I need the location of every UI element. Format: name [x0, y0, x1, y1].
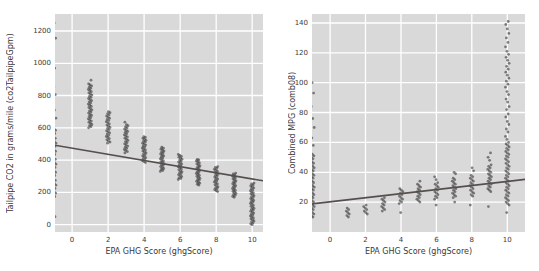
data-point — [472, 169, 475, 172]
data-point — [505, 166, 508, 169]
data-point — [507, 32, 510, 35]
data-point — [504, 169, 507, 172]
data-point — [487, 180, 490, 183]
data-point — [487, 165, 490, 168]
data-point — [216, 165, 219, 168]
data-point — [469, 204, 472, 207]
data-point — [435, 204, 438, 207]
data-point — [507, 41, 510, 44]
y-tick-label: 1000 — [23, 59, 51, 67]
data-point — [470, 174, 473, 177]
data-point — [488, 177, 491, 180]
left-plot-panel — [55, 14, 263, 232]
data-point — [486, 187, 489, 190]
data-point — [452, 184, 455, 187]
x-tick-label: 0 — [322, 236, 338, 244]
data-point — [507, 83, 510, 86]
data-point — [470, 181, 473, 184]
data-point — [469, 177, 472, 180]
data-point — [125, 123, 128, 126]
data-point — [434, 183, 437, 186]
data-point — [398, 202, 401, 205]
x-tick-label: 6 — [172, 236, 188, 244]
data-point — [253, 182, 256, 185]
data-point — [507, 123, 510, 126]
data-point — [346, 207, 349, 210]
y-tick-label: 400 — [23, 156, 51, 164]
data-point — [507, 93, 510, 96]
x-tick-label: 0 — [64, 236, 80, 244]
x-tick-label: 4 — [136, 236, 152, 244]
data-point — [504, 177, 507, 180]
data-point — [487, 156, 490, 159]
data-point — [87, 82, 90, 85]
data-point — [312, 144, 315, 147]
data-point — [451, 180, 454, 183]
data-point — [453, 201, 456, 204]
data-point — [504, 135, 507, 138]
data-point — [505, 211, 508, 214]
data-point — [507, 68, 510, 71]
data-point — [142, 135, 145, 138]
data-point — [452, 189, 455, 192]
data-point — [506, 28, 509, 31]
data-point — [214, 166, 217, 169]
data-point — [313, 126, 316, 129]
data-point — [507, 53, 510, 56]
data-point — [508, 62, 511, 65]
data-point — [488, 159, 491, 162]
data-point — [505, 37, 508, 40]
data-point — [177, 153, 180, 156]
x-tick-label: 8 — [464, 236, 480, 244]
data-point — [486, 168, 489, 171]
right-plot-panel — [312, 14, 525, 232]
data-point — [507, 113, 510, 116]
y-tick-label: 0 — [23, 221, 51, 229]
data-point — [436, 181, 439, 184]
data-point — [433, 198, 436, 201]
data-point — [451, 192, 454, 195]
data-point — [505, 98, 508, 101]
data-point — [160, 146, 163, 149]
data-point — [419, 180, 422, 183]
data-point — [416, 195, 419, 198]
data-point — [504, 71, 507, 74]
data-point — [505, 186, 508, 189]
plot-background — [55, 14, 263, 232]
data-point — [398, 187, 401, 190]
data-point — [435, 178, 438, 181]
data-point — [505, 193, 508, 196]
data-point — [380, 205, 383, 208]
data-point — [505, 143, 508, 146]
data-point — [505, 147, 508, 150]
data-point — [507, 131, 510, 134]
data-point — [506, 90, 509, 93]
data-point — [505, 65, 508, 68]
data-point — [504, 189, 507, 192]
x-tick-label: 10 — [499, 236, 515, 244]
data-point — [346, 214, 349, 217]
y-tick-label: 120 — [280, 49, 308, 57]
x-tick-label: 2 — [358, 236, 374, 244]
data-point — [399, 199, 402, 202]
data-point — [506, 138, 509, 141]
y-tick-label: 600 — [23, 124, 51, 132]
data-point — [434, 195, 437, 198]
y-tick-label: 40 — [280, 168, 308, 176]
data-point — [234, 172, 237, 175]
data-point — [312, 92, 315, 95]
data-point — [345, 210, 348, 213]
left-plot-canvas — [55, 14, 263, 232]
data-point — [504, 150, 507, 153]
data-point — [416, 183, 419, 186]
data-point — [506, 120, 509, 123]
data-point — [506, 74, 509, 77]
data-point — [362, 205, 365, 208]
y-tick-label: 20 — [280, 198, 308, 206]
data-point — [453, 171, 456, 174]
data-point — [487, 172, 490, 175]
x-tick-label: 10 — [244, 236, 260, 244]
x-tick-label: 6 — [428, 236, 444, 244]
data-point — [363, 210, 366, 213]
data-point — [398, 195, 401, 198]
